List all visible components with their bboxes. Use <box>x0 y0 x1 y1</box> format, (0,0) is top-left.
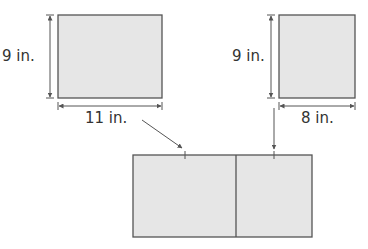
combined-rectangle <box>133 151 312 237</box>
right-height-dimension <box>267 15 275 98</box>
diagonal-arrow <box>142 120 182 148</box>
right-rectangle: 9 in. 8 in. <box>232 15 355 127</box>
area-diagram: 9 in. 11 in. 9 in. 8 in. <box>0 0 368 249</box>
left-width-label: 11 in. <box>85 109 127 127</box>
left-rectangle: 9 in. 11 in. <box>2 15 162 127</box>
left-height-label: 9 in. <box>2 47 35 65</box>
right-width-label: 8 in. <box>301 109 334 127</box>
left-height-dimension <box>46 15 54 98</box>
right-height-label: 9 in. <box>232 47 265 65</box>
